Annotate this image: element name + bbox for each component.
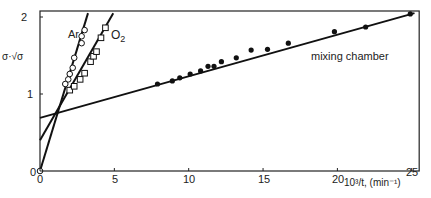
- xtick-5: 5: [112, 173, 118, 185]
- fit-lines: [40, 13, 415, 171]
- xtick-0: 0: [37, 173, 43, 185]
- plot-frame: [40, 11, 419, 171]
- xtick-10: 10: [183, 173, 195, 185]
- label-o2: O2: [111, 28, 125, 44]
- data-points: [37, 11, 413, 173]
- xtick-15: 15: [258, 173, 270, 185]
- ytick-1: 1: [27, 88, 33, 100]
- label-ar: Ar: [68, 28, 79, 40]
- label-mixing-chamber: mixing chamber: [311, 50, 389, 62]
- axis-ticks: [40, 17, 412, 171]
- chart: 2 1 0 0 5 10 15 20 25 10³/t, (min⁻¹) σ·√…: [0, 0, 431, 198]
- xtick-20: 20: [332, 173, 344, 185]
- ytick-0: 0: [30, 166, 36, 178]
- x-axis-label: 10³/t, (min⁻¹): [344, 177, 401, 188]
- xtick-25: 25: [406, 166, 418, 178]
- y-axis-label: σ·√σ: [2, 51, 24, 62]
- ytick-2: 2: [21, 11, 27, 23]
